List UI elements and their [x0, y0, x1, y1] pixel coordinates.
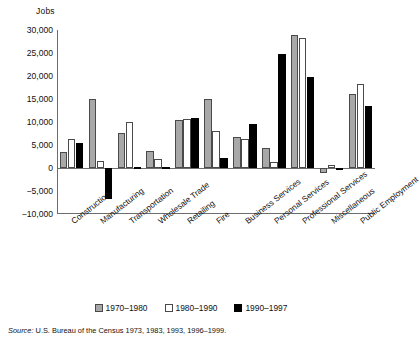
legend-swatch-icon [95, 304, 103, 312]
bar-group [230, 30, 259, 214]
bar [97, 161, 104, 168]
bar [118, 133, 125, 168]
bar-group [86, 30, 115, 214]
bar [220, 158, 227, 168]
legend-item: 1970–1980 [95, 303, 148, 313]
bar [154, 159, 161, 168]
source-note: Source: U.S. Bureau of the Census 1973, … [8, 326, 226, 335]
bar-group [57, 30, 86, 214]
y-tick-label: 20,000 [3, 72, 53, 81]
y-tick-label: 0 [3, 164, 53, 173]
y-tick-label: 25,000 [3, 49, 53, 58]
bar [191, 118, 198, 168]
bar [241, 139, 248, 168]
legend-label: 1980–1990 [176, 303, 218, 313]
bar [320, 168, 327, 173]
bar [134, 167, 141, 169]
bar [175, 120, 182, 168]
bar [365, 106, 372, 168]
y-tick-label: 5,000 [3, 141, 53, 150]
bar [76, 143, 83, 168]
legend-item: 1990–1997 [234, 303, 287, 313]
source-prefix: Source: [8, 326, 33, 335]
y-tick-label: 30,000 [3, 26, 53, 35]
bar [68, 139, 75, 168]
bar [307, 77, 314, 168]
bar [204, 99, 211, 168]
bar [328, 165, 335, 168]
bar [183, 119, 190, 168]
bar [291, 35, 298, 168]
bar [126, 122, 133, 168]
source-text: U.S. Bureau of the Census 1973, 1983, 19… [36, 326, 227, 335]
y-tick-label: 15,000 [3, 95, 53, 104]
legend-label: 1990–1997 [245, 303, 287, 313]
bar [349, 94, 356, 168]
bar [336, 168, 343, 170]
y-tick-label: 10,000 [3, 118, 53, 127]
bar [212, 131, 219, 168]
bar [270, 162, 277, 168]
chart-legend: 1970–19801980–19901990–1997 [0, 300, 382, 316]
bar [299, 38, 306, 168]
bar [249, 124, 256, 168]
y-tick-label: −5,000 [3, 187, 53, 196]
bar [146, 151, 153, 168]
legend-label: 1970–1980 [106, 303, 148, 313]
legend-swatch-icon [234, 304, 242, 312]
legend-item: 1980–1990 [165, 303, 218, 313]
bar [278, 54, 285, 168]
bar [60, 152, 67, 168]
x-axis-category-labels: ConstructionManufacturingTransportationW… [0, 214, 382, 294]
bar [233, 137, 240, 168]
bar [162, 167, 169, 169]
bar [89, 99, 96, 168]
bar [262, 148, 269, 168]
legend-swatch-icon [165, 304, 173, 312]
bar [357, 84, 364, 168]
